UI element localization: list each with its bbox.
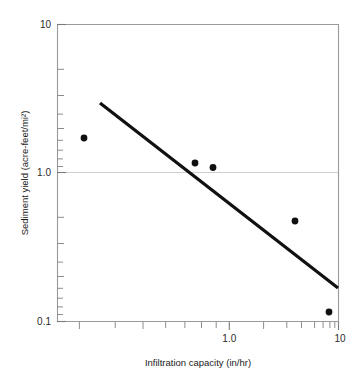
x-axis-label-right: 10 (334, 333, 346, 344)
data-point (81, 135, 88, 142)
data-point (292, 218, 299, 225)
scatter-plot-svg: 10 1.0 0.1 1.0 10 Sediment yield (acre-f… (0, 0, 358, 379)
chart-background (0, 0, 358, 379)
y-axis-label-top: 10 (40, 19, 52, 30)
x-axis-title: Infiltration capacity (in/hr) (145, 357, 251, 368)
y-axis-label-bottom: 0.1 (37, 316, 51, 327)
data-point (192, 160, 199, 167)
data-point (326, 309, 333, 316)
data-point (210, 164, 217, 171)
y-axis-label-mid: 1.0 (37, 167, 51, 178)
chart-figure: 10 1.0 0.1 1.0 10 Sediment yield (acre-f… (0, 0, 358, 379)
y-axis-title: Sediment yield (acre-feet/mi²) (19, 111, 30, 236)
x-axis-label-mid: 1.0 (222, 333, 236, 344)
